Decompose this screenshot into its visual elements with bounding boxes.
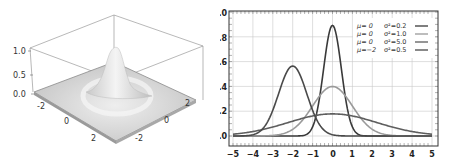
svg-text:1: 1	[349, 150, 355, 159]
svg-text:-2: -2	[37, 102, 45, 111]
svg-text:4: 4	[409, 150, 415, 159]
svg-text:-2: -2	[135, 134, 143, 143]
normal-distribution-chart: 1.0 0.8 0.6 0.4 0.2 0.0 −5 −4 −3 −2 −1 0…	[220, 0, 454, 162]
svg-text:σ²=1.0: σ²=1.0	[384, 30, 407, 38]
svg-text:1.0: 1.0	[220, 9, 227, 18]
z-axis-labels: 1.0 0.5 0.0	[13, 47, 26, 99]
svg-text:2: 2	[185, 99, 190, 108]
svg-text:0.6: 0.6	[220, 58, 227, 67]
svg-text:−3: −3	[267, 150, 279, 159]
svg-text:μ= 0: μ= 0	[356, 30, 373, 38]
svg-text:0: 0	[330, 150, 336, 159]
svg-text:−1: −1	[307, 150, 320, 159]
svg-text:0.4: 0.4	[220, 83, 227, 92]
svg-text:2: 2	[369, 150, 375, 159]
svg-text:σ²=0.2: σ²=0.2	[384, 22, 407, 30]
svg-text:5: 5	[429, 150, 435, 159]
svg-text:μ=−2: μ=−2	[356, 46, 376, 54]
svg-text:1.0: 1.0	[13, 47, 26, 56]
svg-text:0.5: 0.5	[13, 71, 26, 80]
svg-text:σ²=5.0: σ²=5.0	[384, 38, 407, 46]
svg-text:σ²=0.5: σ²=0.5	[384, 46, 407, 54]
svg-text:0.8: 0.8	[220, 34, 227, 43]
y-axis-labels: 1.0 0.8 0.6 0.4 0.2 0.0	[220, 9, 227, 141]
svg-text:2: 2	[91, 134, 96, 143]
svg-text:0: 0	[64, 117, 69, 126]
surface-plot-panel: 1.0 0.5 0.0 -2 0 2 -2 0 2	[0, 0, 220, 162]
svg-text:μ= 0: μ= 0	[356, 38, 373, 46]
surface-plot: 1.0 0.5 0.0 -2 0 2 -2 0 2	[0, 0, 220, 162]
svg-text:0: 0	[164, 116, 169, 125]
chart-legend: μ= 0 σ²=0.2 μ= 0 σ²=1.0 μ= 0 σ²=5.0 μ=−2…	[353, 18, 435, 58]
svg-text:0.0: 0.0	[220, 132, 227, 141]
svg-text:−2: −2	[287, 150, 299, 159]
svg-text:0.2: 0.2	[220, 107, 227, 116]
x-axis-labels: −5 −4 −3 −2 −1 0 1 2 3 4 5	[227, 150, 435, 159]
svg-text:0.0: 0.0	[13, 90, 26, 99]
svg-text:−4: −4	[247, 150, 260, 159]
svg-text:−5: −5	[227, 150, 240, 159]
svg-text:μ= 0: μ= 0	[356, 22, 373, 30]
svg-text:3: 3	[389, 150, 395, 159]
normal-distribution-chart-panel: 1.0 0.8 0.6 0.4 0.2 0.0 −5 −4 −3 −2 −1 0…	[220, 0, 454, 162]
